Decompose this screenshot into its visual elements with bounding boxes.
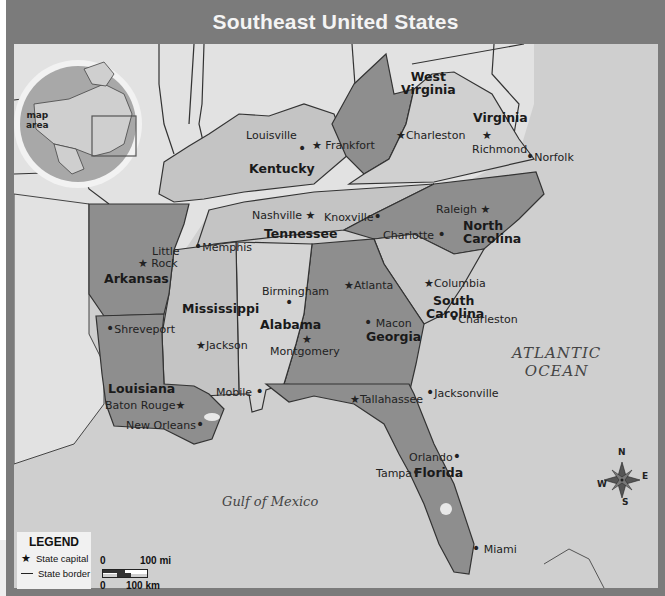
capital-charleston-wv-label: Charleston <box>406 129 466 142</box>
compass-s: S <box>622 496 628 508</box>
capital-richmond-label: Richmond <box>472 144 527 156</box>
city-miami-label: Miami <box>484 543 517 556</box>
city-charlotte-label: Charlotte <box>383 229 434 242</box>
city-shreveport: •Shreveport <box>106 322 175 336</box>
lake-pontchartrain <box>204 413 220 421</box>
city-louisville-label: Louisville <box>246 129 297 142</box>
city-knoxville-label: Knoxville <box>324 211 374 224</box>
border-line-icon <box>21 573 33 574</box>
city-jacksonville: •Jacksonville <box>426 386 499 400</box>
city-norfolk: •Norfolk <box>526 150 574 164</box>
state-label-kentucky: Kentucky <box>249 162 315 175</box>
capital-jackson-label: Jackson <box>206 339 248 352</box>
capital-little-rock-label-2: Rock <box>151 257 177 270</box>
capital-atlanta-label: Atlanta <box>354 279 393 292</box>
city-birmingham-dot: • <box>285 296 293 308</box>
city-tampa-label: Tampa <box>376 467 412 480</box>
scale-bar: 0 100 mi 0 100 km <box>98 555 208 591</box>
legend-border-label: State border <box>38 568 90 579</box>
state-label-north-carolina: North Carolina <box>463 219 521 245</box>
compass-n: N <box>618 446 626 458</box>
capital-frankfort: ★ Frankfort <box>312 140 375 152</box>
state-label-tennessee: Tennessee <box>264 227 337 240</box>
scale-mi-label: 100 mi <box>140 555 171 566</box>
city-jacksonville-label: Jacksonville <box>434 387 498 400</box>
compass-w: W <box>597 478 607 490</box>
city-knoxville: Knoxville• <box>324 210 382 224</box>
scale-mi-zero: 0 <box>100 555 106 566</box>
city-orlando: Orlando• <box>409 450 461 464</box>
capital-charleston-wv: ★Charleston <box>396 130 465 142</box>
capital-jackson: ★Jackson <box>196 340 248 352</box>
state-label-florida: Florida <box>414 466 463 479</box>
city-louisville-dot: • <box>298 142 306 154</box>
capital-nashville: Nashville ★ <box>252 210 315 222</box>
scale-bar-graphic <box>102 569 148 578</box>
compass-rose <box>604 462 640 498</box>
atlantic-label-2: OCEAN <box>512 362 601 380</box>
capital-richmond-star: ★ <box>482 130 492 142</box>
city-memphis: •Memphis <box>194 240 252 254</box>
state-label-louisiana: Louisiana <box>108 382 175 395</box>
capital-baton-rouge-label: Baton Rouge <box>105 399 175 412</box>
capital-tallahassee: ★Tallahassee <box>350 394 423 406</box>
state-label-west-virginia-2: Virginia <box>401 83 456 96</box>
inset-label-line1: map <box>26 110 49 120</box>
capital-columbia-label: Columbia <box>434 277 486 290</box>
capital-tallahassee-label: Tallahassee <box>360 393 423 406</box>
atlantic-ocean-label: ATLANTIC OCEAN <box>512 344 601 380</box>
capital-little-rock: Little ★ Rock <box>138 246 180 270</box>
map-title: Southeast United States <box>212 10 458 34</box>
gulf-of-mexico-label: Gulf of Mexico <box>222 496 318 508</box>
city-charlotte: Charlotte • <box>383 228 446 242</box>
city-shreveport-label: Shreveport <box>114 323 175 336</box>
legend-capital-label: State capital <box>36 553 88 564</box>
legend-title: LEGEND <box>17 535 91 549</box>
city-macon-label: Macon <box>376 317 412 330</box>
inset-label-line2: area <box>26 120 49 130</box>
city-louisville: Louisville <box>246 130 297 142</box>
map-frame: Southeast United States <box>6 0 665 596</box>
capital-columbia: ★Columbia <box>424 278 486 290</box>
capital-baton-rouge: Baton Rouge★ <box>105 400 185 412</box>
city-norfolk-label: Norfolk <box>534 151 574 164</box>
city-birmingham: Birmingham <box>262 286 329 298</box>
atlantic-label-1: ATLANTIC <box>512 344 601 362</box>
map-area: map area Kentucky West Virginia Virginia… <box>14 44 658 588</box>
legend-row-capital: ★ State capital <box>21 552 88 565</box>
capital-raleigh: Raleigh ★ <box>436 204 490 216</box>
lake-okeechobee <box>440 503 452 515</box>
state-label-georgia: Georgia <box>366 330 421 343</box>
city-mobile: Mobile • <box>216 385 264 399</box>
city-miami: • Miami <box>472 542 517 556</box>
city-new-orleans: New Orleans• <box>126 418 204 432</box>
map-svg <box>14 44 658 588</box>
state-label-alabama: Alabama <box>260 318 321 331</box>
legend: LEGEND ★ State capital State border <box>17 532 91 589</box>
star-icon: ★ <box>21 552 31 565</box>
inset-label: map area <box>26 110 49 130</box>
city-charleston-sc: •Charleston <box>450 312 518 326</box>
city-macon: • Macon <box>364 316 412 330</box>
capital-raleigh-label: Raleigh <box>436 203 477 216</box>
state-label-north-carolina-2: Carolina <box>463 232 521 245</box>
scale-km-zero: 0 <box>100 580 106 591</box>
title-bar: Southeast United States <box>6 0 665 44</box>
capital-nashville-label: Nashville <box>252 209 302 222</box>
city-memphis-label: Memphis <box>202 241 252 254</box>
state-label-arkansas: Arkansas <box>104 272 169 285</box>
compass-e: E <box>642 470 648 482</box>
state-label-west-virginia: West Virginia <box>401 70 456 96</box>
capital-atlanta: ★Atlanta <box>344 280 393 292</box>
capital-frankfort-label: Frankfort <box>325 139 375 152</box>
state-label-virginia: Virginia <box>473 111 528 124</box>
state-label-mississippi: Mississippi <box>182 302 259 315</box>
city-charleston-sc-label: Charleston <box>458 313 518 326</box>
city-mobile-label: Mobile <box>216 386 252 399</box>
city-new-orleans-label: New Orleans <box>126 419 196 432</box>
scale-km-label: 100 km <box>126 580 160 591</box>
city-tampa: Tampa• <box>376 466 420 480</box>
legend-row-border: State border <box>21 568 90 579</box>
city-orlando-label: Orlando <box>409 451 453 464</box>
capital-montgomery-label: Montgomery <box>270 346 340 358</box>
